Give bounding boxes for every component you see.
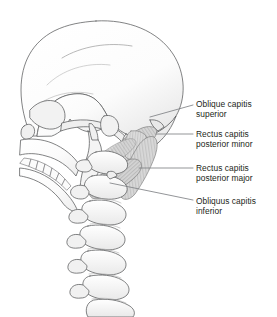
label-rectus-capitis-posterior-major: Rectus capitis posterior major bbox=[196, 163, 253, 183]
label-rectus-capitis-posterior-minor: Rectus capitis posterior minor bbox=[196, 129, 253, 149]
anatomy-illustration bbox=[0, 0, 277, 317]
label-line-2: posterior minor bbox=[196, 139, 253, 149]
label-line-1: Rectus capitis bbox=[196, 129, 249, 139]
nasal-aperture bbox=[21, 124, 35, 139]
label-line-1: Obliquus capitis bbox=[196, 196, 256, 206]
vertebra-c4 bbox=[80, 225, 125, 250]
label-line-1: Oblique capitis bbox=[196, 99, 252, 109]
label-line-2: superior bbox=[196, 109, 252, 119]
vertebra-c7 bbox=[86, 299, 134, 317]
label-oblique-capitis-superior: Oblique capitis superior bbox=[196, 99, 252, 119]
axis-spinous-process bbox=[71, 185, 89, 199]
label-line-1: Rectus capitis bbox=[196, 163, 249, 173]
anatomical-figure: Oblique capitis superior Rectus capitis … bbox=[0, 0, 277, 317]
label-line-2: posterior major bbox=[196, 173, 253, 183]
vertebra-c6 bbox=[83, 275, 129, 300]
label-obliquus-capitis-inferior: Obliquus capitis inferior bbox=[196, 196, 256, 216]
label-line-2: inferior bbox=[196, 206, 256, 216]
vertebra-c3 bbox=[82, 200, 126, 225]
vertebra-c5 bbox=[81, 250, 126, 275]
